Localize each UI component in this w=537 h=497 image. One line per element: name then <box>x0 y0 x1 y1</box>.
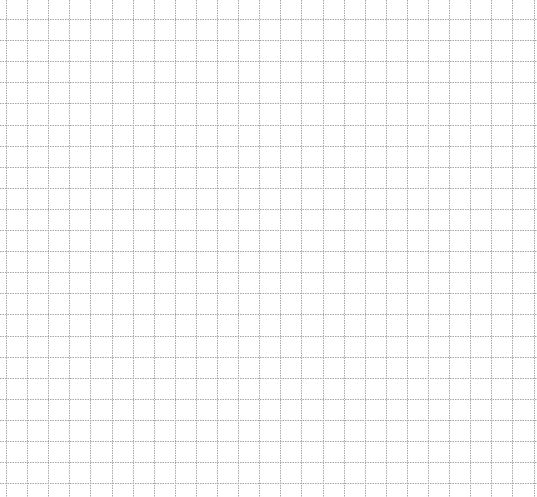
graph-paper-grid <box>0 0 537 497</box>
